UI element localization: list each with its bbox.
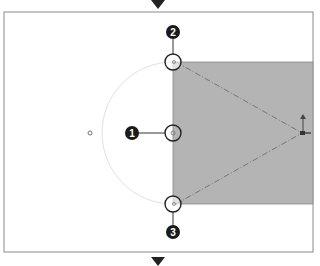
shaded-rectangle [173,62,313,204]
arc-center-point [88,131,92,135]
svg-text:1: 1 [129,128,135,139]
handle-circle-2 [165,54,181,70]
handle-circle-3 [165,196,181,212]
down-arrow-top-icon [151,0,165,9]
cad-diagram: 1 2 3 [0,0,320,266]
down-arrow-bottom-icon [151,257,165,266]
svg-text:3: 3 [170,227,176,238]
svg-text:2: 2 [170,27,176,38]
